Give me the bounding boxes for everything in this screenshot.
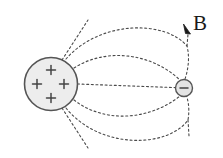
field-ray-bottom-left: [62, 108, 88, 148]
field-label-b: B: [193, 13, 207, 34]
field-line-lower-inner: [74, 96, 180, 116]
field-line-lower-outer: [66, 93, 189, 140]
electric-field-diagram: B: [0, 0, 223, 158]
field-direction-arrowhead: [184, 24, 191, 34]
field-ray-top-left: [62, 20, 88, 60]
negative-point-charge: [176, 80, 193, 97]
field-line-upper-inner: [74, 56, 180, 81]
field-diagram-canvas: [0, 0, 223, 158]
field-line-straight-mid: [78, 84, 176, 88]
positively-charged-sphere: [25, 58, 78, 111]
field-lines-group: [62, 20, 189, 148]
field-ray-upper-vertical-to-b: [187, 34, 188, 46]
field-ray-lower-vertical: [188, 120, 189, 136]
